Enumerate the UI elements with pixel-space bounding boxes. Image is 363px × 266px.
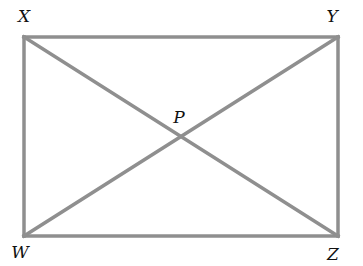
point-label-Z: Z: [326, 244, 340, 264]
point-label-P: P: [172, 107, 185, 127]
rectangle-diagram: XYWZP: [0, 0, 363, 266]
point-label-X: X: [16, 6, 31, 26]
point-label-W: W: [11, 242, 30, 262]
point-label-Y: Y: [326, 6, 339, 26]
segments: [24, 37, 338, 236]
